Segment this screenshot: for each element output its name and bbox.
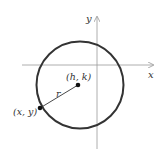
x-axis-label: x [148, 69, 154, 80]
radius-label: r [56, 88, 62, 99]
center-label: (h, k) [66, 71, 92, 82]
point-label: (x, y) [13, 106, 37, 117]
y-axis-label: y [85, 13, 92, 24]
circle-point [38, 106, 43, 111]
center-point [76, 83, 81, 88]
circle-diagram: y x (h, k) r (x, y) [0, 0, 163, 160]
